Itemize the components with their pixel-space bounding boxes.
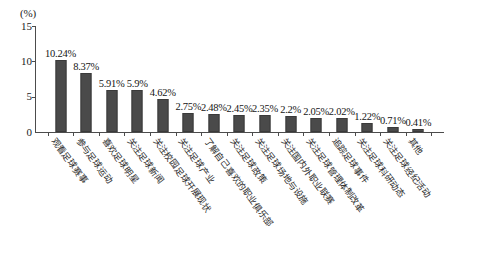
x-tick-mark (406, 132, 407, 136)
x-category-label: 关注足球科研动态 (355, 136, 406, 200)
bar[interactable] (81, 73, 92, 132)
bar[interactable] (285, 116, 296, 132)
bar-value-label: 8.37% (73, 61, 99, 72)
bar-slot[interactable]: 4.62% (150, 26, 176, 132)
x-tick-mark (99, 132, 100, 136)
bar-value-label: 2.2% (280, 104, 301, 115)
x-tick-mark (278, 132, 279, 136)
x-tick-mark (303, 132, 304, 136)
bar[interactable] (413, 129, 424, 132)
bar-slot[interactable]: 0.71% (380, 26, 406, 132)
bar-value-label: 4.62% (150, 87, 176, 98)
bar-value-label: 2.05% (303, 106, 329, 117)
bar[interactable] (183, 113, 194, 132)
bar-slot[interactable]: 0.41% (406, 26, 432, 132)
bar-value-label: 0.71% (380, 115, 406, 126)
x-tick-mark (355, 132, 356, 136)
bar-slot[interactable]: 2.45% (227, 26, 253, 132)
bar-value-label: 5.9% (127, 78, 148, 89)
y-tick-label: 0 (27, 127, 33, 138)
bar-slot[interactable]: 8.37% (73, 26, 99, 132)
bar-value-label: 2.75% (175, 101, 201, 112)
x-tick-mark (73, 132, 74, 136)
x-tick-mark (150, 132, 151, 136)
x-tick-mark (124, 132, 125, 136)
bar-slot[interactable]: 2.35% (252, 26, 278, 132)
bar-slot[interactable]: 1.22% (355, 26, 381, 132)
x-tick-mark (176, 132, 177, 136)
x-category-label: 关注足球经纪活动 (381, 136, 432, 200)
bar-value-label: 2.45% (227, 103, 253, 114)
bar-slot[interactable]: 2.2% (278, 26, 304, 132)
x-tick-mark (201, 132, 202, 136)
bar[interactable] (362, 123, 373, 132)
bar[interactable] (208, 114, 219, 132)
bar-slot[interactable]: 5.91% (99, 26, 125, 132)
bar-slot[interactable]: 10.24% (48, 26, 74, 132)
bar-value-label: 0.41% (405, 117, 431, 128)
bar[interactable] (132, 90, 143, 132)
bar[interactable] (234, 115, 245, 132)
bar-chart: (%) 051015 10.24%8.37%5.91%5.9%4.62%2.75… (0, 0, 480, 258)
bar-slot[interactable]: 2.75% (176, 26, 202, 132)
x-tick-mark (431, 132, 432, 136)
bar-value-label: 2.35% (252, 103, 278, 114)
plot-area: 10.24%8.37%5.91%5.9%4.62%2.75%2.48%2.45%… (35, 26, 444, 132)
x-axis-category-labels: 观看足球赛事参与足球运动喜欢足球明星关注足球新闻关注校园足球开展现状关注足球产业… (35, 133, 444, 257)
bar[interactable] (260, 115, 271, 132)
y-tick-label: 10 (21, 56, 32, 67)
x-tick-mark (252, 132, 253, 136)
bar-value-label: 5.91% (99, 78, 125, 89)
x-tick-mark (380, 132, 381, 136)
bar[interactable] (55, 60, 66, 132)
bar[interactable] (387, 127, 398, 132)
bar-slot[interactable]: 2.02% (329, 26, 355, 132)
bar[interactable] (106, 90, 117, 132)
bar-slot[interactable]: 2.05% (303, 26, 329, 132)
bar-value-label: 2.48% (201, 102, 227, 113)
bar[interactable] (311, 118, 322, 132)
bar[interactable] (157, 99, 168, 132)
bar-value-label: 1.22% (354, 111, 380, 122)
x-category-label: 其他 (406, 136, 425, 156)
y-axis-ticks: 051015 (0, 0, 32, 258)
y-tick-label: 15 (21, 21, 32, 32)
x-tick-mark (227, 132, 228, 136)
bar-slot[interactable]: 5.9% (124, 26, 150, 132)
x-tick-mark (48, 132, 49, 136)
x-tick-mark (329, 132, 330, 136)
bar[interactable] (336, 118, 347, 132)
bar-slot[interactable]: 2.48% (201, 26, 227, 132)
bar-value-label: 2.02% (329, 106, 355, 117)
bar-value-label: 10.24% (45, 48, 76, 59)
